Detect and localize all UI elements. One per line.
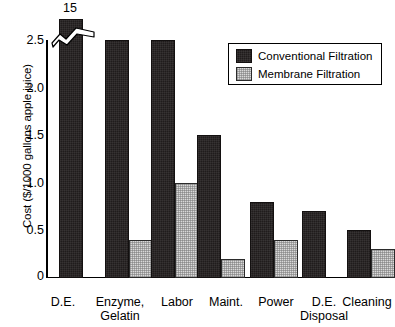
bar-conventional-power xyxy=(250,202,274,278)
bar-membrane-maint xyxy=(221,259,245,278)
bar-conventional-maint xyxy=(197,135,221,278)
legend-item-conventional: Conventional Filtration xyxy=(236,49,372,63)
bar-value-annotation-de: 15 xyxy=(47,2,93,15)
y-tick-label: 2.0 xyxy=(2,82,44,94)
x-tick-label-line1: Cleaning xyxy=(342,295,391,309)
x-tick-label-line1: D.E. xyxy=(312,295,336,309)
bar-membrane-power xyxy=(274,240,298,278)
x-tick-label-de: D.E. xyxy=(38,281,88,309)
x-tick-label-line1: D.E. xyxy=(51,295,75,309)
bar-membrane-cleaning xyxy=(371,249,395,278)
x-tick-label-enzyme-gelatin: Enzyme, Gelatin xyxy=(86,281,154,327)
x-tick-label-line1: Labor xyxy=(161,295,193,309)
x-tick-label-labor: Labor xyxy=(152,281,202,309)
legend: Conventional Filtration Membrane Filtrat… xyxy=(228,43,382,85)
bar-membrane-enzyme-gelatin xyxy=(129,240,153,278)
legend-label-membrane: Membrane Filtration xyxy=(258,68,360,80)
bar-conventional-labor xyxy=(151,40,175,278)
bar-conventional-enzyme-gelatin xyxy=(105,40,129,278)
x-tick-label-line2: Disposal xyxy=(296,309,352,323)
legend-swatch-conventional-icon xyxy=(236,49,252,63)
legend-item-membrane: Membrane Filtration xyxy=(236,67,360,81)
bar-conventional-de-disposal xyxy=(302,211,326,278)
bar-conventional-de xyxy=(59,19,83,278)
bar-conventional-cleaning xyxy=(347,230,371,278)
x-tick-label-line1: Maint. xyxy=(209,295,243,309)
x-tick-label-cleaning: Cleaning xyxy=(340,281,394,309)
x-tick-label-line1: Power xyxy=(258,295,293,309)
y-tick-label: 1.5 xyxy=(2,129,44,141)
x-tick-label-line1: Enzyme, xyxy=(96,295,145,309)
y-tick-label: 1.0 xyxy=(2,177,44,189)
bar-membrane-labor xyxy=(175,183,199,278)
legend-label-conventional: Conventional Filtration xyxy=(258,50,372,62)
y-tick-label: 0.5 xyxy=(2,224,44,236)
x-tick-label-maint: Maint. xyxy=(200,281,252,309)
legend-swatch-membrane-icon xyxy=(236,67,252,81)
plot-area xyxy=(46,0,384,278)
y-axis-tick-labels: 2.5 2.0 1.5 1.0 0.5 0 xyxy=(0,0,44,318)
y-tick-label: 2.5 xyxy=(2,34,44,46)
x-tick-label-line2: Gelatin xyxy=(86,309,154,323)
x-tick-label-power: Power xyxy=(251,281,301,309)
